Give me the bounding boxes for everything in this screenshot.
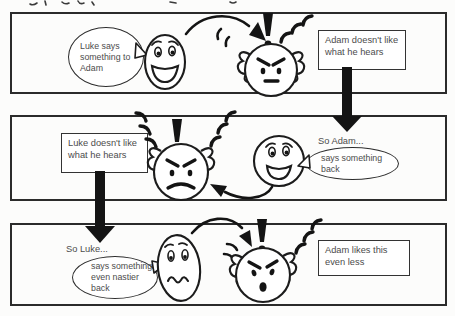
speech-bubble-text: Luke says something to Adam <box>80 41 137 74</box>
label-box-adam-likes-less: Adam likes this even less <box>318 240 410 276</box>
speech-bubble-luke-says-nastier: says something even nastier back <box>72 256 158 299</box>
speech-bubble-text: says something even nastier back <box>91 261 155 294</box>
label-box-luke-reaction: Luke doesn't like what he hears <box>61 133 148 173</box>
comic-strip-escalation-diagram: Luke says something to Adam Adam doesn't… <box>0 0 455 316</box>
speech-bubble-luke-says: Luke says something to Adam <box>68 27 144 87</box>
speech-bubble-adam-says-back: says something back <box>306 147 399 180</box>
label-box-text: Adam likes this even less <box>325 245 388 267</box>
label-box-adam-reaction: Adam doesn't like what he hears <box>318 30 406 70</box>
caption-so-luke: So Luke... <box>66 244 108 254</box>
cropped-text-remnant <box>30 1 236 5</box>
speech-bubble-text: says something back <box>321 153 394 175</box>
label-box-text: Luke doesn't like what he hears <box>68 138 137 160</box>
label-box-text: Adam doesn't like what he hears <box>325 35 398 57</box>
caption-so-adam: So Adam... <box>318 136 363 146</box>
